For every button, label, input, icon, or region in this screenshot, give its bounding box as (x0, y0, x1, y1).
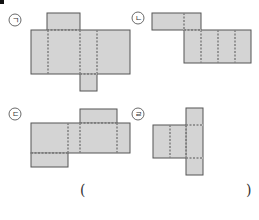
net-face (80, 74, 97, 91)
net-digeut: ㄷ (9, 108, 130, 167)
net-face (47, 13, 80, 30)
answer-open-paren: ( (80, 182, 85, 198)
answer-close-paren: ) (246, 182, 251, 198)
net-nieun: ㄴ (132, 12, 251, 63)
net-face (152, 13, 201, 30)
net-face (80, 109, 117, 123)
figure-label: ㄱ (12, 16, 19, 25)
net-face (31, 153, 68, 167)
figure-label: ㄴ (135, 14, 142, 23)
answer-blank[interactable] (92, 182, 242, 202)
figure-label: ㄷ (12, 110, 19, 119)
net-face (186, 108, 203, 175)
net-giyeok: ㄱ (9, 13, 130, 91)
figure-label: ㄹ (135, 110, 142, 119)
net-rieul: ㄹ (132, 108, 203, 175)
